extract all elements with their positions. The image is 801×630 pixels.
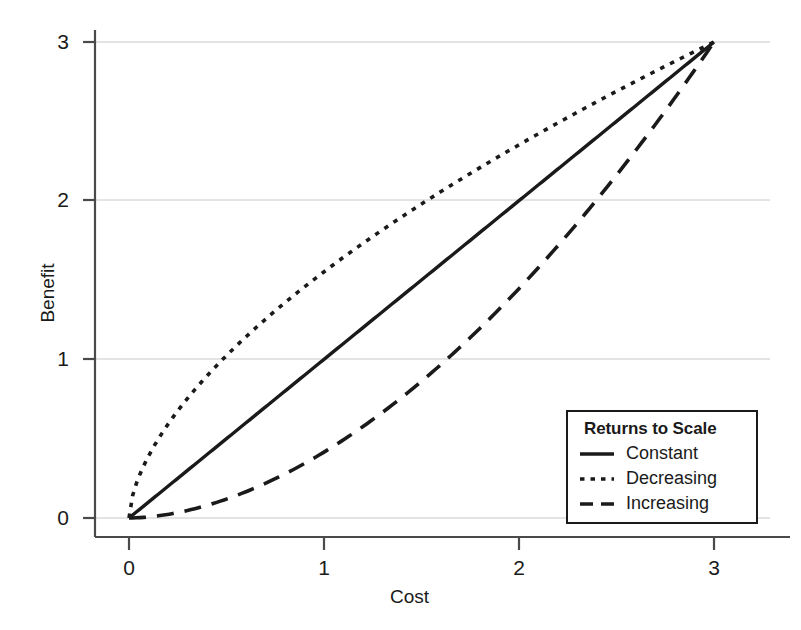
legend-item-increasing[interactable]: Increasing — [578, 491, 746, 516]
y-tick-label-3: 3 — [52, 31, 74, 52]
legend-swatch-dotted-icon — [578, 471, 620, 487]
x-axis-title: Cost — [390, 586, 429, 608]
x-tick-label-2: 2 — [508, 557, 530, 578]
legend-swatch-solid-icon — [578, 446, 620, 462]
x-tick-label-1: 1 — [313, 557, 335, 578]
y-tick-label-1: 1 — [52, 348, 74, 369]
legend-box: Returns to Scale Constant Decreasing — [566, 410, 758, 524]
y-tick-label-2: 2 — [52, 189, 74, 210]
legend-swatch-dashed-icon — [578, 496, 620, 512]
plot-area — [0, 0, 801, 630]
legend-title: Returns to Scale — [584, 419, 746, 439]
legend-label-decreasing: Decreasing — [626, 468, 717, 489]
y-axis-title: Benefit — [37, 263, 59, 322]
x-axis — [95, 537, 790, 550]
legend-item-decreasing[interactable]: Decreasing — [578, 466, 746, 491]
chart-figure: 3 2 1 0 0 1 2 3 Cost Benefit Returns to … — [0, 0, 801, 630]
legend-label-constant: Constant — [626, 443, 698, 464]
y-tick-label-0: 0 — [52, 507, 74, 528]
x-tick-label-0: 0 — [118, 557, 140, 578]
y-axis — [83, 30, 95, 537]
y-axis-title-wrapper: Benefit — [28, 238, 68, 348]
legend-item-constant[interactable]: Constant — [578, 441, 746, 466]
legend-label-increasing: Increasing — [626, 493, 709, 514]
x-tick-label-3: 3 — [703, 557, 725, 578]
